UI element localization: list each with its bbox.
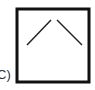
left-diagonal-line [27,20,51,45]
diagram-canvas [0,0,95,90]
square-frame [17,9,89,82]
right-diagonal-line [57,20,82,45]
